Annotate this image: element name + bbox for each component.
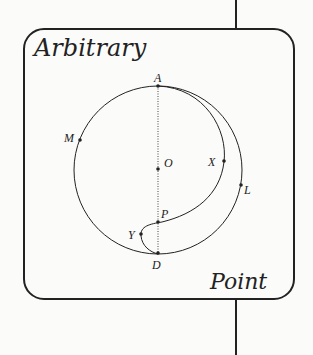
label-l: L: [243, 183, 251, 197]
spiral-curve: [141, 86, 225, 254]
label-y: Y: [128, 228, 136, 242]
label-a: A: [153, 71, 162, 85]
label-p: P: [160, 207, 169, 221]
point-y: [139, 232, 143, 236]
point-m: [78, 138, 82, 142]
title-bottom: Point: [209, 269, 267, 294]
point-d: [156, 251, 160, 255]
arbitrary-point-diagram: Arbitrary Point A M O X L P Y D: [0, 0, 313, 355]
label-m: M: [63, 131, 75, 145]
point-o: [156, 167, 160, 171]
label-x: X: [207, 155, 216, 169]
label-o: O: [164, 156, 173, 170]
point-x: [222, 159, 226, 163]
title-top: Arbitrary: [32, 34, 147, 62]
label-d: D: [151, 258, 161, 272]
point-l: [239, 183, 243, 187]
point-p: [156, 220, 160, 224]
